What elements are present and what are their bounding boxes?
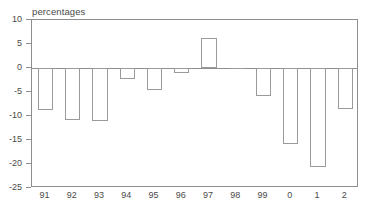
plot-area (31, 19, 358, 187)
x-axis: 919293949596979899012 (31, 190, 358, 210)
bar[interactable] (229, 68, 244, 69)
x-axis-tick-label: 96 (176, 190, 186, 200)
bar[interactable] (338, 68, 353, 109)
x-axis-tick-label: 97 (203, 190, 213, 200)
bar[interactable] (92, 68, 107, 121)
chart-title: percentages (32, 6, 85, 17)
x-axis-tick-label: 95 (149, 190, 159, 200)
x-axis-tick-label: 94 (121, 190, 131, 200)
y-axis-tick-label: -10 (9, 110, 22, 120)
y-axis-tick-label: -15 (9, 134, 22, 144)
y-axis: 1050-5-10-15-20-25 (0, 0, 31, 218)
y-axis-tick-label: -25 (9, 182, 22, 192)
bar-chart: percentages 1050-5-10-15-20-25 919293949… (0, 0, 374, 218)
bar[interactable] (120, 68, 135, 79)
y-axis-tick-label: -20 (9, 158, 22, 168)
x-axis-tick-label: 98 (230, 190, 240, 200)
y-axis-tick-label: 0 (17, 62, 22, 72)
x-axis-tick-label: 99 (258, 190, 268, 200)
y-axis-tick-label: -5 (14, 86, 22, 96)
x-axis-tick-label: 93 (94, 190, 104, 200)
x-axis-tick-label: 1 (315, 190, 320, 200)
bar[interactable] (147, 68, 162, 90)
bar[interactable] (65, 68, 80, 120)
bar[interactable] (201, 38, 216, 68)
x-axis-tick-label: 2 (342, 190, 347, 200)
y-axis-tick-label: 5 (17, 38, 22, 48)
bar[interactable] (310, 68, 325, 167)
x-axis-tick-label: 91 (40, 190, 50, 200)
y-axis-tick-label: 10 (12, 14, 22, 24)
x-axis-tick-label: 92 (67, 190, 77, 200)
bar[interactable] (174, 68, 189, 73)
bar[interactable] (38, 68, 53, 110)
bar[interactable] (283, 68, 298, 144)
bars-layer (32, 20, 357, 186)
x-axis-tick-label: 0 (287, 190, 292, 200)
bar[interactable] (256, 68, 271, 96)
